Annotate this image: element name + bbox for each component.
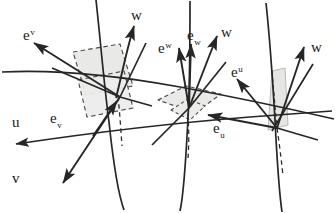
label-e-sup-w: ew — [158, 40, 171, 56]
label-u-axis-base: u — [12, 114, 20, 130]
tangent-stub-right — [277, 128, 318, 140]
label-e-sup-u: eu — [231, 64, 242, 80]
label-w-right-base: w — [311, 39, 322, 55]
label-e-sup-v: ev — [23, 27, 34, 43]
label-e-sup-v-base: e — [23, 27, 30, 43]
v-curve-right-lower — [275, 120, 282, 212]
label-w-mid-base: w — [221, 24, 232, 40]
label-e-sup-v-script: v — [30, 27, 35, 37]
label-e-sup-u-script: u — [238, 64, 243, 74]
label-e-sup-w-script: w — [165, 40, 172, 50]
label-e-sub-w-script: w — [194, 37, 201, 47]
label-w-mid: w — [221, 24, 232, 40]
v-curve-left-lower — [109, 122, 124, 210]
label-v-axis-base: v — [12, 170, 20, 186]
label-e-sub-v: ev — [50, 110, 61, 129]
label-e-sub-w-base: e — [187, 27, 194, 43]
label-v-axis: v — [12, 170, 20, 186]
label-e-sub-v-script: v — [57, 120, 62, 130]
label-e-sup-w-base: e — [158, 40, 165, 56]
coordinate-grid-diagram — [0, 0, 336, 213]
label-e-sup-u-base: e — [231, 64, 238, 80]
label-w-left-base: w — [131, 7, 142, 23]
vectors-right-point — [208, 47, 318, 140]
label-w-left: w — [131, 7, 142, 23]
label-e-sub-v-base: e — [50, 110, 57, 126]
label-w-right: w — [311, 39, 322, 55]
figure-root: ev w ev ew ew w eu eu w u v — [0, 0, 336, 213]
label-e-sub-w: ew — [187, 27, 200, 46]
v-curve-mid-lower — [180, 118, 188, 211]
label-e-sub-u: eu — [213, 120, 224, 139]
label-e-sub-u-base: e — [213, 120, 220, 136]
label-e-sub-u-script: u — [220, 130, 225, 140]
label-u-axis: u — [12, 114, 20, 130]
